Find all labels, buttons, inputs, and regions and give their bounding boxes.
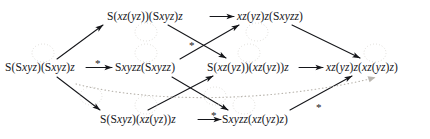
term-S-Sxyz-Sxyz-z: S(Sxyz)(Sxyz)z <box>5 62 75 74</box>
edge-dotted-arrowhead <box>368 76 376 82</box>
edge-dotted-mid1-to-mid4 <box>76 78 374 98</box>
star-label-left-horizontal: * <box>95 58 101 69</box>
edge-mid1-to-topleft <box>57 25 103 59</box>
term-xz-yz-z-Sxyzz: xz(yz)z(Sxyzz) <box>237 11 303 23</box>
term-S-xz-yz-Sxyz-z: S(xz(yz))(Sxyz)z <box>107 11 183 23</box>
edge-topleft-to-mid3 <box>168 25 226 58</box>
term-Sxyzz-Sxyzz: Sxyzz(Sxyzz) <box>115 62 175 74</box>
term-S-xz-yz-xz-yz-z: S(xz(yz))(xz(yz))z <box>207 62 289 74</box>
term-Sxyzz-xz-yz-z: Sxyzz(xz(yz)z) <box>222 114 288 126</box>
term-xz-yz-z-xz-yz-z: xz(yz)z(xz(yz)z) <box>326 62 398 74</box>
edge-topright-to-mid4 <box>292 25 360 58</box>
star-label-dotted-curve: * <box>316 102 322 113</box>
term-S-Sxyz-xz-yz-z: S(Sxyz)(xz(yz))z <box>100 114 176 126</box>
edge-botleft-to-mid3 <box>148 76 213 110</box>
star-label-bottom-horizontal: * <box>211 110 217 121</box>
star-label-upper-crossing: * <box>189 40 195 51</box>
reduction-diagram: S(xz(yz))(Sxyz)z xz(yz)z(Sxyzz) S(Sxyz)(… <box>0 0 430 139</box>
edge-mid1-to-botleft <box>57 77 100 110</box>
